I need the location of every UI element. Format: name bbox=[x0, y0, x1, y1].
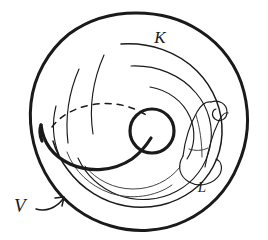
label-torus-v: V bbox=[14, 195, 28, 216]
knot-in-solid-torus-drawing: K L V bbox=[0, 0, 268, 240]
knot-front-strand bbox=[41, 125, 151, 170]
torus-hole-circle bbox=[130, 109, 174, 153]
label-band-l: L bbox=[197, 179, 206, 195]
tube-seam-left-b bbox=[67, 69, 79, 143]
pointer-arrow bbox=[36, 197, 64, 210]
tube-seam-left-a bbox=[54, 106, 59, 155]
tube-contour-lower-left bbox=[67, 152, 172, 197]
tube-seam-left-c bbox=[91, 55, 104, 134]
label-knot-k: K bbox=[153, 28, 167, 47]
figure-canvas: K L V bbox=[0, 0, 268, 240]
pointer-arrow-shaft bbox=[36, 199, 63, 210]
tube-contour-outer bbox=[53, 44, 222, 208]
tube-contour-middle bbox=[78, 66, 211, 200]
